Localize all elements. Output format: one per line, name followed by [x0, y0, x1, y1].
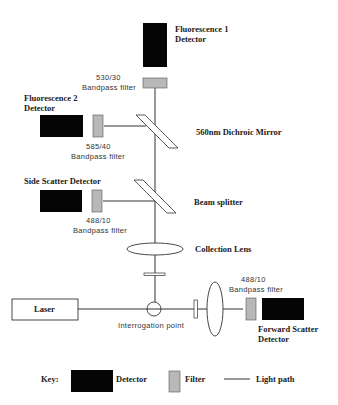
fl2-detector-label: Fluorescence 2 [24, 93, 77, 103]
flow-cytometer-diagram: Fluorescence 1 Detector 530/30 Bandpass … [0, 0, 338, 405]
fl1-filter [143, 78, 167, 88]
fs-filter [246, 298, 256, 320]
obscuration-bar-vertical-path [144, 273, 165, 276]
ss-detector [40, 190, 82, 212]
fs-detector [262, 298, 304, 320]
fs-detector-label-2: Detector [258, 334, 289, 344]
fl2-filter-label: Bandpass filter [71, 152, 125, 161]
fl2-detector [40, 115, 83, 137]
obscuration-bar-forward-path [194, 300, 198, 318]
fl2-filter [93, 115, 103, 137]
key-detector-label: Detector [116, 374, 147, 384]
beam-splitter-label: Beam splitter [194, 197, 243, 207]
key-legend: Key: Detector Filter Light path [41, 370, 295, 392]
fs-filter-spec: 488/10 [241, 275, 266, 284]
ss-detector-label: Side Scatter Detector [24, 176, 101, 186]
laser-label: Laser [34, 304, 55, 314]
ss-filter-label: Bandpass filter [73, 226, 127, 235]
fl1-detector-label: Fluorescence 1 [175, 24, 228, 34]
ss-filter-spec: 488/10 [86, 216, 111, 225]
dichroic-mirror [136, 115, 178, 148]
key-filter-label: Filter [185, 374, 206, 384]
fl1-filter-label: Bandpass filter [82, 83, 136, 92]
fl1-detector-label-2: Detector [175, 34, 206, 44]
ss-filter [92, 190, 102, 212]
fl1-filter-spec: 530/30 [96, 73, 121, 82]
interrogation-point-label: Interrogation point [118, 321, 185, 330]
fs-filter-label: Bandpass filter [229, 285, 283, 294]
key-filter-swatch [169, 371, 180, 392]
key-detector-swatch [71, 370, 113, 392]
fl2-detector-label-2: Detector [24, 103, 55, 113]
collection-lens-label: Collection Lens [195, 244, 252, 254]
dichroic-mirror-label: 560nm Dichroic Mirror [196, 127, 282, 137]
key-light-path-label: Light path [256, 374, 295, 384]
forward-lens [207, 282, 223, 336]
fl1-detector [143, 23, 167, 67]
key-title: Key: [41, 374, 59, 384]
collection-lens [127, 243, 183, 255]
fs-detector-label: Forward Scatter [258, 324, 318, 334]
fl2-filter-spec: 585/40 [86, 142, 111, 151]
